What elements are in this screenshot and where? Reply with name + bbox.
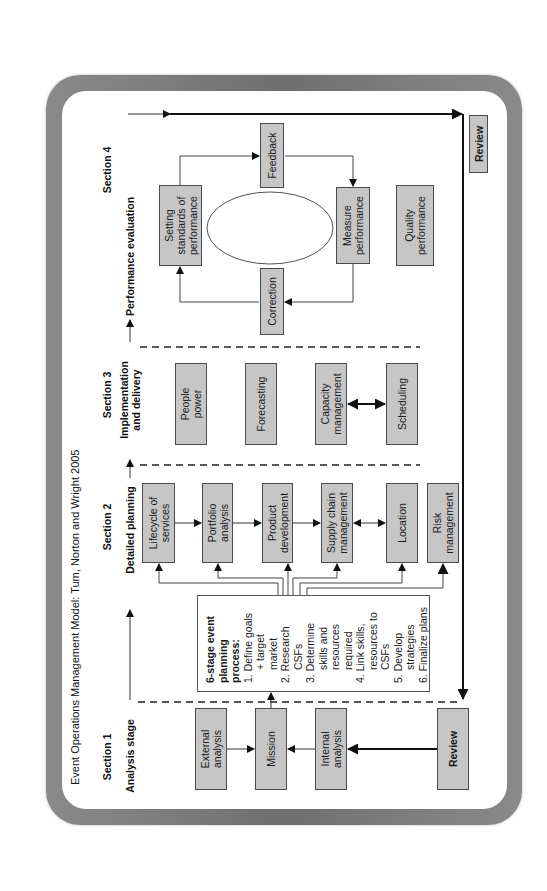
planning-heading: 6-stage event planning process: xyxy=(204,604,242,683)
section-4-label: Section 4 xyxy=(101,135,113,205)
box-external-analysis: Externalanalysis xyxy=(195,708,227,790)
stage-detailed-planning: Detailed planning xyxy=(124,478,136,582)
planning-step: 6. Finalize plans xyxy=(417,604,430,683)
box-risk-management: Riskmanagement xyxy=(427,483,459,563)
box-internal-analysis: Internalanalysis xyxy=(315,708,347,790)
box-correction: Correction xyxy=(260,268,284,335)
box-scheduling: Scheduling xyxy=(386,363,418,445)
diagram-title: Event Operations Management Model: Tum, … xyxy=(69,450,81,785)
box-portfolio-analysis: Portfolioanalysis xyxy=(202,483,233,563)
box-people-power: Peoplepower xyxy=(175,363,207,445)
planning-step: 3. Determine skills and resources requir… xyxy=(304,604,354,683)
planning-step: 2. Research CSFs xyxy=(279,604,304,683)
stage-analysis: Analysis stage xyxy=(124,710,136,802)
box-review-top: Review xyxy=(469,115,488,173)
box-forecasting: Forecasting xyxy=(245,363,277,445)
box-supply-chain-management: Supply chainmanagement xyxy=(321,483,353,563)
planning-step: 1. Define goals + target market xyxy=(242,604,280,683)
planning-process-box: 6-stage event planning process: 1. Defin… xyxy=(197,595,430,692)
box-quality-performance: Qualityperformance xyxy=(396,185,434,266)
box-capacity-management: Capacitymanagement xyxy=(315,363,347,445)
box-product-development: Productdevelopment xyxy=(262,483,293,563)
planning-step: 5. Develop strategies xyxy=(392,604,417,683)
stage-performance-evaluation: Performance evaluation xyxy=(124,176,136,316)
box-review: Review xyxy=(437,708,469,790)
planning-steps: 1. Define goals + target market 2. Resea… xyxy=(242,604,430,683)
box-location: Location xyxy=(386,483,418,563)
box-mission: Mission xyxy=(255,708,287,790)
box-lifecycle-of-services: Lifecycle ofservices xyxy=(142,483,175,563)
box-setting-standards: Settingstandards ofperformance xyxy=(159,185,202,266)
box-feedback: Feedback xyxy=(260,123,284,188)
stage-implementation-delivery: Implementation and delivery xyxy=(118,342,142,458)
section-1-label: Section 1 xyxy=(101,722,113,792)
section-3-label: Section 3 xyxy=(101,360,113,430)
planning-step: 4. Link skills, resources to CSFs xyxy=(354,604,392,683)
box-measure-performance: Measureperformance xyxy=(336,187,370,264)
section-2-label: Section 2 xyxy=(101,492,113,562)
diagram-canvas: Event Operations Management Model: Tum, … xyxy=(62,90,507,810)
